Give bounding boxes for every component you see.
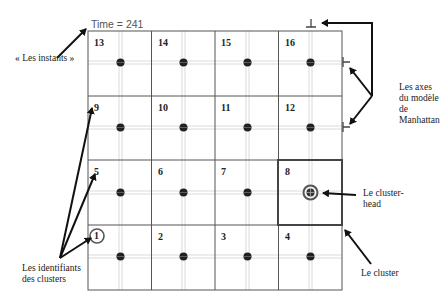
cluster-id-3: 3 — [221, 231, 226, 242]
annotation-cluster-head: Le cluster- head — [363, 188, 404, 210]
annotation-axes-line-4: Manhattan — [399, 115, 440, 126]
cluster-id-11: 11 — [221, 102, 230, 113]
cluster-id-4: 4 — [285, 231, 290, 242]
cluster-id-2: 2 — [158, 231, 163, 242]
annotation-cluster-head-line-2: head — [363, 199, 404, 210]
annotation-axes: Les axes du modèle de Manhattan — [399, 82, 440, 126]
cluster-id-1: 1 — [94, 230, 99, 241]
cluster-id-15: 15 — [221, 37, 231, 48]
cluster-id-7: 7 — [221, 166, 226, 177]
cluster-id-6: 6 — [158, 166, 163, 177]
annotation-instants: « Les instants » — [15, 53, 74, 64]
cluster-id-16: 16 — [285, 37, 295, 48]
cluster-id-10: 10 — [158, 102, 168, 113]
annotation-identifiers: Les identifiants des clusters — [22, 263, 81, 285]
cluster-id-14: 14 — [158, 37, 168, 48]
annotation-axes-line-1: Les axes — [399, 82, 440, 93]
annotation-identifiers-line-2: des clusters — [22, 274, 81, 285]
cluster-id-5: 5 — [94, 166, 99, 177]
cluster-id-12: 12 — [285, 102, 295, 113]
cluster-id-8: 8 — [285, 166, 290, 177]
annotation-cluster: Le cluster — [361, 268, 399, 279]
annotation-axes-line-3: de — [399, 104, 440, 115]
annotation-axes-line-2: du modèle — [399, 93, 440, 104]
annotation-identifiers-line-1: Les identifiants — [22, 263, 81, 274]
time-label: Time = 241 — [91, 18, 143, 30]
axis-marker-icons — [306, 19, 350, 132]
cluster-head-node — [304, 186, 318, 200]
cluster-id-13: 13 — [94, 37, 104, 48]
cluster-id-9: 9 — [94, 102, 99, 113]
annotation-cluster-head-line-1: Le cluster- — [363, 188, 404, 199]
